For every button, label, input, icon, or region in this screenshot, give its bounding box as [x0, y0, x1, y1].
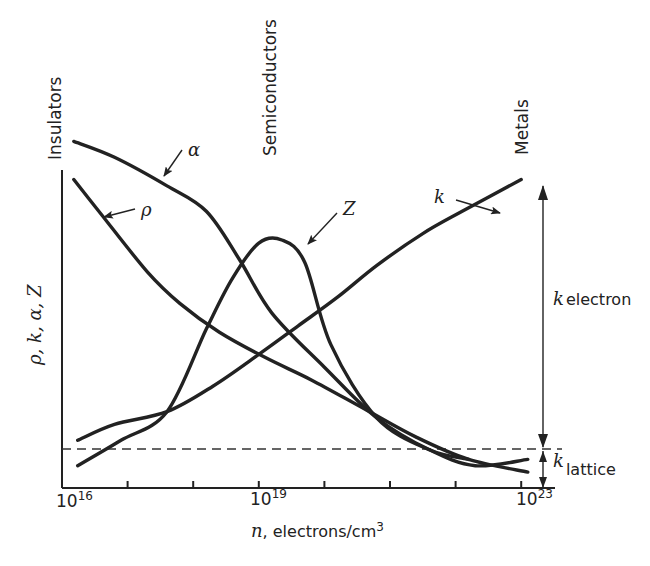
y-axis-label: ρ, k, α, Z	[24, 284, 45, 366]
z-label: Z	[342, 198, 356, 219]
curve-z	[78, 238, 469, 466]
chart-figure: α ρ Z k kelectron klattice Insulators Se…	[0, 0, 650, 566]
alpha-label: α	[188, 139, 200, 160]
x-tick-label-1e19: 1019	[250, 487, 287, 509]
k-label: k	[434, 186, 445, 207]
k-electron-up-arrow-icon	[538, 185, 548, 200]
k-lattice-label: klattice	[553, 450, 616, 479]
x-axis-label: n, electrons/cm3	[251, 520, 384, 541]
region-label-metals: Metals	[512, 99, 532, 155]
k-electron-label: kelectron	[553, 288, 631, 309]
rho-arrow-icon	[104, 209, 135, 217]
x-ticks	[128, 481, 522, 488]
alpha-arrow-icon	[164, 150, 182, 176]
region-label-semiconductors: Semiconductors	[260, 19, 280, 156]
rho-label: ρ	[140, 199, 152, 220]
k-lattice-up-arrow-icon	[539, 451, 547, 462]
x-tick-label-1e23: 1023	[516, 487, 553, 509]
z-arrow-icon	[308, 213, 337, 244]
x-tick-label-1e16: 1016	[56, 489, 93, 511]
region-label-insulators: Insulators	[45, 76, 65, 160]
k-electron-down-arrow-icon	[538, 434, 548, 448]
